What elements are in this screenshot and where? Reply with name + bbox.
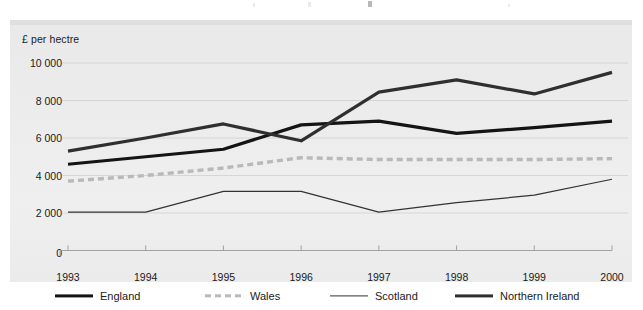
- x-tick-label-2000: 2000: [600, 271, 623, 283]
- legend-label: England: [100, 291, 140, 302]
- solid-thick-darkgray-line-icon: [455, 291, 493, 301]
- legend-label: Scotland: [375, 291, 418, 302]
- chart-legend: EnglandWalesScotlandNorthern Ireland: [0, 286, 643, 308]
- legend-item-scotland[interactable]: Scotland: [330, 286, 418, 306]
- dashed-gray-line-icon: [205, 291, 243, 301]
- x-tick-label-1999: 1999: [523, 271, 546, 283]
- x-tick-label-1994: 1994: [134, 271, 157, 283]
- series-line-wales: [68, 158, 612, 181]
- axis-lines: [60, 246, 612, 256]
- x-tick-label-1995: 1995: [212, 271, 235, 283]
- solid-thin-black-line-icon: [330, 291, 368, 301]
- legend-item-england[interactable]: England: [55, 286, 140, 306]
- x-tick-label-1998: 1998: [445, 271, 468, 283]
- legend-label: Wales: [250, 291, 280, 302]
- x-tick-label-1993: 1993: [56, 271, 79, 283]
- solid-thick-black-line-icon: [55, 291, 93, 301]
- series-line-northern-ireland: [68, 72, 612, 151]
- legend-label: Northern Ireland: [500, 291, 580, 302]
- legend-item-northern-ireland[interactable]: Northern Ireland: [455, 286, 580, 306]
- x-axis-tick-labels: 19931994199519961997199819992000: [0, 262, 643, 282]
- chart-figure: £ per hectre 10 000 8 000 6 000 4 000 2 …: [0, 0, 643, 310]
- x-tick-label-1997: 1997: [367, 271, 390, 283]
- series-line-scotland: [68, 179, 612, 212]
- data-series-lines: [68, 72, 612, 212]
- x-tick-label-1996: 1996: [289, 271, 312, 283]
- legend-item-wales[interactable]: Wales: [205, 286, 280, 306]
